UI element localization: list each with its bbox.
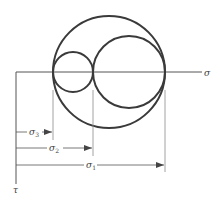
tau-axis-label: τ bbox=[13, 185, 19, 195]
mohr-circle-diagram: σ τ σ3 σ2 σ1 bbox=[0, 0, 220, 200]
sigma3-label: σ3 bbox=[29, 127, 39, 138]
sigma-axis-label: σ bbox=[204, 68, 211, 78]
sigma2-label: σ2 bbox=[49, 143, 59, 154]
sigma1-label: σ1 bbox=[86, 160, 96, 171]
diagram-svg: σ τ σ3 σ2 σ1 bbox=[0, 0, 220, 200]
